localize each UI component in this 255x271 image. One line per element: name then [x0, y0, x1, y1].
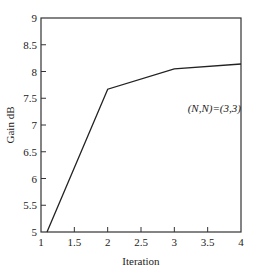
annotation-label: (N,N)=(3,3) [188, 102, 242, 115]
x-tick-label: 3.5 [201, 236, 215, 248]
y-tick-label: 9 [32, 12, 38, 24]
y-tick-label: 8.5 [23, 39, 37, 51]
x-tick-label: 2.5 [134, 236, 148, 248]
y-axis-label: Gain dB [4, 107, 16, 144]
series-layer [47, 64, 241, 232]
y-tick-label: 7 [32, 119, 38, 131]
y-tick-label: 6.5 [23, 146, 37, 158]
y-axis-ticks: 55.566.577.588.59 [23, 12, 46, 238]
y-tick-label: 7.5 [23, 92, 37, 104]
plot-border [41, 18, 241, 232]
plot-frame [41, 18, 241, 232]
y-tick-label: 5.5 [23, 199, 37, 211]
data-line [47, 64, 241, 232]
x-axis-ticks: 11.522.533.54 [38, 227, 244, 248]
y-tick-label: 8 [32, 66, 38, 78]
x-tick-label: 1 [38, 236, 44, 248]
x-tick-label: 1.5 [67, 236, 81, 248]
line-chart: 55.566.577.588.59 11.522.533.54 (N,N)=(3… [0, 0, 255, 271]
y-tick-label: 5 [32, 226, 38, 238]
x-axis-label: Iteration [122, 255, 160, 267]
y-tick-label: 6 [32, 173, 38, 185]
x-tick-label: 2 [105, 236, 111, 248]
x-tick-label: 3 [172, 236, 178, 248]
x-tick-label: 4 [238, 236, 244, 248]
